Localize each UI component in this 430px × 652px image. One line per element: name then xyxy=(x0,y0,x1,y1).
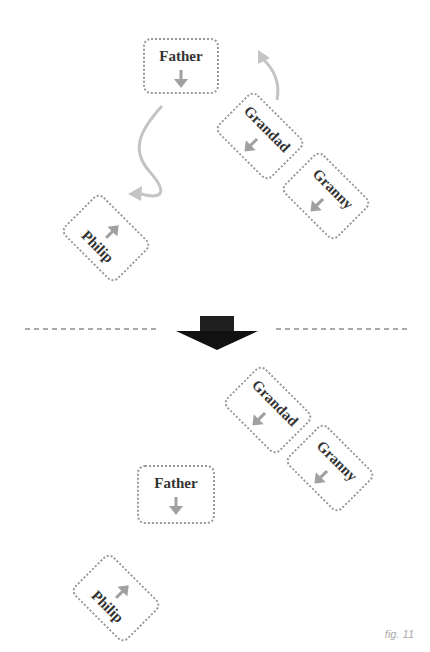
arrow-down-left-icon xyxy=(309,466,332,489)
arrowhead-icon xyxy=(128,186,142,201)
arrow-up-right-icon xyxy=(111,580,134,603)
card-label: Father xyxy=(145,48,217,65)
arrow-down-left-icon xyxy=(239,134,262,157)
card-father-after: Father xyxy=(137,465,215,524)
figure-caption: fig. 11 xyxy=(385,628,414,640)
arrow-down-left-icon xyxy=(247,408,270,431)
card-father-before: Father xyxy=(143,38,219,94)
arrow-down-left-icon xyxy=(305,194,328,217)
card-label: Father xyxy=(139,475,213,492)
arrow-up-right-icon xyxy=(101,220,124,243)
big-down-arrow-icon xyxy=(176,316,258,350)
arrow-down-icon xyxy=(169,497,183,515)
diagram-overlay xyxy=(0,0,430,652)
arrow-down-icon xyxy=(174,70,188,88)
curved-arrow-father-to-philip xyxy=(138,106,162,196)
curved-arrow-grandad-up xyxy=(262,58,278,100)
